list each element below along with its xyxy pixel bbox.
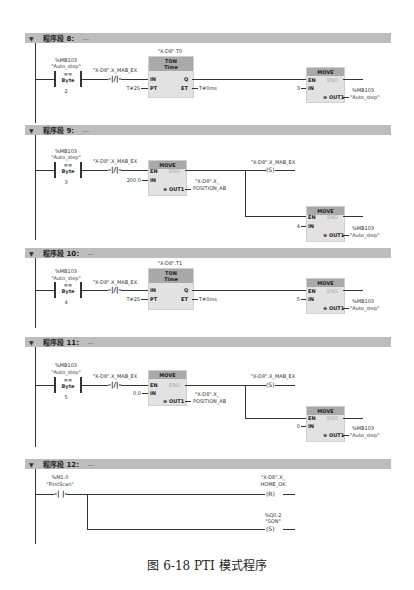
power-rail — [35, 347, 36, 447]
network-comment[interactable]: ... — [82, 126, 89, 134]
pin-et: ET — [181, 296, 188, 302]
branch-wire — [245, 170, 246, 217]
pin-in: IN — [308, 223, 314, 229]
rung-wire — [343, 216, 363, 217]
pin-out: OUT1 — [329, 305, 344, 311]
network-header-9[interactable]: ▼ 程序段 9： ... — [25, 125, 391, 135]
move-title: MOVE — [149, 371, 186, 379]
wire — [142, 180, 148, 181]
wire — [185, 401, 191, 402]
set-coil[interactable]: (S) — [266, 525, 275, 532]
rung-wire — [35, 385, 148, 386]
timer-instance: "X-D8".T0 — [158, 48, 182, 54]
set-coil[interactable]: (S) — [266, 381, 275, 388]
pin-out: OUT1 — [329, 432, 344, 438]
nc-contact-tag: "X-D8".X_MAB_EX — [93, 279, 137, 285]
collapse-arrow-icon[interactable]: ▼ — [29, 250, 43, 257]
pin-pt: PT — [150, 85, 157, 91]
compare-value: 3 — [64, 179, 67, 185]
power-rail — [35, 43, 36, 123]
move-out-address: %MB103 — [352, 225, 374, 231]
out-marker-icon: ⊕ — [323, 432, 327, 438]
compare-value: 5 — [64, 394, 67, 400]
out-marker-icon: ⊕ — [323, 232, 327, 238]
network-header-12[interactable]: ▼ 程序段 12： ... — [25, 459, 391, 469]
network-header-11[interactable]: ▼ 程序段 11： ... — [25, 337, 391, 347]
rung-wire — [343, 290, 363, 291]
no-contact[interactable]: -| |- — [54, 490, 67, 498]
network-comment[interactable]: ... — [87, 460, 94, 468]
compare-type: Byte — [56, 383, 80, 389]
rung-wire — [283, 494, 295, 495]
move-in-value: 3 — [297, 85, 300, 91]
network-comment[interactable]: ... — [87, 338, 94, 346]
pin-out: OUT1 — [169, 398, 184, 404]
compare-contact[interactable]: == Byte — [54, 282, 82, 298]
network-title: 程序段 12： — [43, 459, 83, 469]
out-marker-icon: ⊕ — [163, 398, 167, 404]
power-rail — [35, 258, 36, 328]
network-title: 程序段 11： — [43, 337, 83, 347]
nc-contact[interactable]: -|/|- — [108, 166, 121, 174]
wire — [185, 189, 191, 190]
pt-value: T#2S — [126, 85, 140, 91]
pin-eno: ENO — [327, 288, 338, 294]
wire — [301, 226, 306, 227]
move-out-address: %MB103 — [352, 298, 374, 304]
pin-et: ET — [181, 85, 188, 91]
wire — [192, 299, 198, 300]
pin-en: EN — [150, 382, 158, 388]
network-title: 程序段 10： — [43, 248, 83, 258]
compare-type: Byte — [56, 77, 80, 83]
move-out-tag: "Auto_step" — [350, 432, 380, 438]
network-title: 程序段 8： — [43, 33, 78, 43]
wire — [343, 97, 349, 98]
set-coil-tag: "SON" — [265, 518, 280, 524]
wire — [343, 435, 349, 436]
move-title: MOVE — [307, 68, 344, 76]
reset-coil[interactable]: (R) — [266, 490, 275, 497]
rung-wire — [192, 290, 306, 291]
network-comment[interactable]: ... — [87, 249, 94, 257]
out-marker-icon: ⊕ — [163, 186, 167, 192]
collapse-arrow-icon[interactable]: ▼ — [29, 339, 43, 346]
compare-contact[interactable]: == Byte — [54, 71, 82, 87]
collapse-arrow-icon[interactable]: ▼ — [29, 461, 43, 468]
branch-wire — [245, 385, 246, 419]
pin-en: EN — [308, 77, 316, 83]
pin-q: Q — [184, 287, 188, 293]
power-rail — [35, 135, 36, 240]
wire — [142, 393, 148, 394]
power-rail — [35, 469, 36, 544]
move-in-value: 4 — [297, 223, 300, 229]
set-coil-tag: "X-D8".X_MAB_EX — [251, 159, 295, 165]
pin-eno: ENO — [327, 415, 338, 421]
network-header-10[interactable]: ▼ 程序段 10： ... — [25, 248, 391, 258]
move-out-tag: "X-D8".X_ — [195, 391, 219, 397]
network-comment[interactable]: ... — [82, 34, 89, 42]
wire — [343, 308, 349, 309]
move-in-value: 200.0 — [127, 177, 141, 183]
move-in-value: 0 — [297, 423, 300, 429]
collapse-arrow-icon[interactable]: ▼ — [29, 35, 43, 42]
wire — [141, 88, 148, 89]
collapse-arrow-icon[interactable]: ▼ — [29, 127, 43, 134]
rung-wire — [35, 494, 265, 495]
compare-contact[interactable]: == Byte — [54, 162, 82, 178]
set-coil[interactable]: (S) — [266, 166, 275, 173]
nc-contact[interactable]: -|/|- — [108, 286, 121, 294]
rung-wire — [283, 170, 295, 171]
nc-contact[interactable]: -|/|- — [108, 75, 121, 83]
rung-wire — [343, 418, 363, 419]
compare-contact[interactable]: == Byte — [54, 377, 82, 393]
move-out-tag: POSITION_AB — [193, 185, 226, 191]
nc-contact[interactable]: -|/|- — [108, 381, 121, 389]
rung-wire — [343, 79, 363, 80]
rung-wire — [192, 79, 306, 80]
compare-tag: "Auto_step" — [51, 63, 81, 69]
move-out-tag: "Auto_step" — [350, 94, 380, 100]
network-header-8[interactable]: ▼ 程序段 8： ... — [25, 33, 391, 43]
nc-contact-tag: "X-D8".X_MAB_EX — [93, 158, 137, 164]
compare-type: Byte — [56, 168, 80, 174]
wire — [301, 299, 306, 300]
